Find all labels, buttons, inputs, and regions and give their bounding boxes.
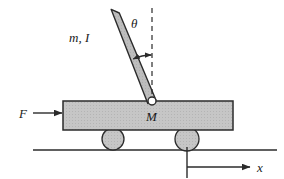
pendulum-mass-label: m, I (69, 30, 90, 45)
x-axis-label: x (256, 160, 263, 175)
inverted-pendulum-diagram: θ m, I M F x (0, 0, 284, 179)
cart-mass-label: M (145, 109, 158, 124)
theta-label: θ (131, 16, 138, 31)
force-label: F (18, 106, 28, 121)
pivot-joint (148, 97, 156, 105)
wheel-left (102, 128, 124, 150)
